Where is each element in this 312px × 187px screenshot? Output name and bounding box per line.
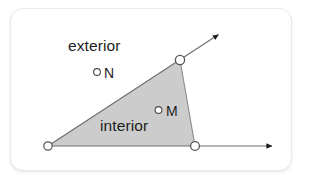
figure-root: exterior interior N M [0,0,312,187]
exterior-label: exterior [68,37,120,54]
point-n-label: N [104,65,114,81]
point-n-marker [94,69,101,76]
upper-ray-point-marker [175,55,184,64]
interior-label: interior [100,117,148,134]
point-m-marker [155,107,162,114]
lower-ray-point-marker [191,142,200,151]
vertex-point-marker [44,142,52,150]
point-m-label: M [166,103,178,119]
angle-diagram-svg: exterior interior N M [0,0,312,187]
